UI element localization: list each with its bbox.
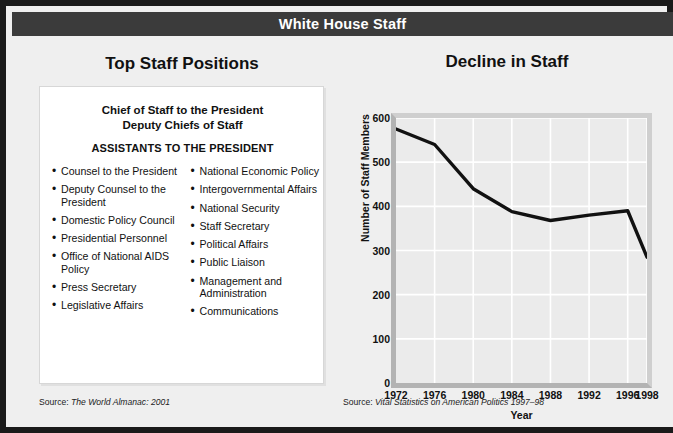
chart-plot-inner: 0100200300400500600 19721976198019841988… [396,118,647,383]
bullet-icon: • [191,165,200,177]
chart-y-tick-label: 400 [372,200,390,212]
right-source-title: Vital Statistics on American Politics 19… [375,397,544,407]
chart-y-tick-label: 600 [372,112,390,124]
top-position-deputy-chiefs: Deputy Chiefs of Staff [40,118,325,133]
chart-plot-area: 0100200300400500600 19721976198019841988… [391,113,652,388]
assistants-column-right: • National Economic Policy • Intergovern… [183,165,326,380]
list-item-label: Public Liaison [200,256,322,268]
chart-y-tick-label: 500 [372,156,390,168]
list-item-label: Management and Administration [200,275,322,300]
figure-title-bar: White House Staff [12,12,673,36]
chart-y-axis-label: Number of Staff Members [359,103,371,253]
left-source-title: The World Almanac: 2001 [71,397,170,407]
list-item: • Press Secretary [52,281,181,293]
list-item: • Presidential Personnel [52,232,181,244]
assistants-column-left: • Counsel to the President • Deputy Coun… [40,165,183,380]
list-item: • Domestic Policy Council [52,214,181,226]
list-item-label: Staff Secretary [200,220,322,232]
list-item-label: Press Secretary [61,281,181,293]
list-item-label: Deputy Counsel to the President [61,183,181,208]
bullet-icon: • [52,165,61,177]
list-item: • Communications [191,305,322,317]
assistants-columns: • Counsel to the President • Deputy Coun… [40,165,325,380]
list-item-label: Intergovernmental Affairs [200,183,322,195]
list-item: • National Economic Policy [191,165,322,177]
bullet-icon: • [52,214,61,226]
bullet-icon: • [191,202,200,214]
list-item: • Staff Secretary [191,220,322,232]
list-item: • National Security [191,202,322,214]
staff-positions-box: Chief of Staff to the President Deputy C… [39,86,324,384]
chart-x-tick-label: 1998 [635,389,658,401]
chart-title: Decline in Staff [342,52,672,72]
list-item: • Political Affairs [191,238,322,250]
list-item: • Management and Administration [191,275,322,300]
chart-y-tick-label: 300 [372,245,390,257]
bullet-icon: • [191,183,200,195]
bullet-icon: • [52,281,61,293]
bullet-icon: • [52,299,61,311]
chart-data-line [396,129,647,257]
chart-y-tick-label: 200 [372,289,390,301]
list-item-label: Office of National AIDS Policy [61,250,181,275]
list-item: • Deputy Counsel to the President [52,183,181,208]
top-positions-group: Chief of Staff to the President Deputy C… [40,103,325,133]
list-item-label: Counsel to the President [61,165,181,177]
assistants-heading: ASSISTANTS TO THE PRESIDENT [40,142,325,154]
chart-x-axis-label: Year [391,409,652,421]
bullet-icon: • [191,275,200,287]
list-item: • Public Liaison [191,256,322,268]
list-item-label: Political Affairs [200,238,322,250]
chart-y-tick-label: 0 [384,377,390,389]
bullet-icon: • [52,250,61,262]
chart-svg [396,118,647,383]
decline-in-staff-chart: Number of Staff Members 0100200300400500… [342,72,672,402]
left-panel-heading: Top Staff Positions [34,54,330,74]
list-item: • Legislative Affairs [52,299,181,311]
list-item-label: National Security [200,202,322,214]
list-item-label: Legislative Affairs [61,299,181,311]
left-source-prefix: Source: [39,397,71,407]
list-item: • Counsel to the President [52,165,181,177]
bullet-icon: • [191,256,200,268]
list-item-label: Communications [200,305,322,317]
left-source-note: Source: The World Almanac: 2001 [39,397,170,407]
bullet-icon: • [191,305,200,317]
figure-body: Top Staff Positions Chief of Staff to th… [12,36,673,427]
chart-y-tick-label: 100 [372,333,390,345]
figure-title: White House Staff [279,16,406,32]
top-position-chief-of-staff: Chief of Staff to the President [40,103,325,118]
bullet-icon: • [191,220,200,232]
bullet-icon: • [52,183,61,195]
list-item: • Office of National AIDS Policy [52,250,181,275]
chart-x-tick-label: 1992 [577,389,600,401]
bullet-icon: • [191,238,200,250]
bullet-icon: • [52,232,61,244]
list-item-label: National Economic Policy [200,165,322,177]
list-item-label: Presidential Personnel [61,232,181,244]
list-item: • Intergovernmental Affairs [191,183,322,195]
white-house-staff-figure: White House Staff Top Staff Positions Ch… [0,0,673,433]
list-item-label: Domestic Policy Council [61,214,181,226]
right-source-prefix: Source: [343,397,375,407]
right-source-note: Source: Vital Statistics on American Pol… [343,397,544,407]
